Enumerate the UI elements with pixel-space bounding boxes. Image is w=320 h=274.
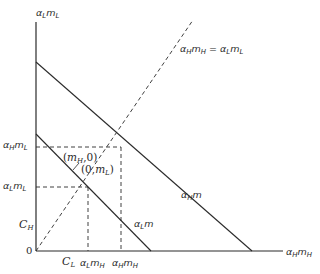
diagonal-label: αHmH = αLmL: [180, 44, 243, 56]
x-axis-label: αHmH: [286, 247, 312, 259]
point-label-0mL: (0,mL): [81, 164, 114, 177]
y-tick-aHmL: αHmL: [3, 140, 28, 152]
inner-budget-label: αLm: [134, 219, 153, 231]
x-tick-CL: CL: [62, 256, 75, 269]
y-tick-CH: CH: [19, 219, 34, 232]
diagonal-dashed-line: [36, 20, 193, 251]
x-tick-aLmH: αLmH: [80, 258, 105, 270]
x-tick-aHmH: αHmH: [112, 258, 138, 270]
y-tick-aLmL: αLmL: [3, 181, 26, 193]
outer-budget-label: αHm: [181, 190, 202, 202]
origin-label: 0: [26, 246, 32, 256]
y-axis-label: αLmL: [36, 8, 59, 20]
diagram-canvas: [0, 0, 320, 274]
